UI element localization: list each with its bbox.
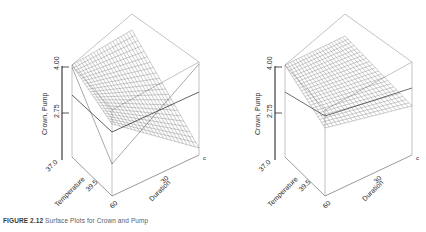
- figure-caption: FIGURE 2.12 Surface Plots for Crown and …: [3, 217, 148, 224]
- figure-caption-bar: FIGURE 2.12 Surface Plots for Crown and …: [0, 216, 426, 232]
- x-axis-title-left: Temperature: [53, 175, 87, 209]
- surface-mesh-right: [285, 36, 412, 128]
- z-tick-min-right: 2.75: [266, 104, 273, 118]
- surface-plot-left-svg: 4.00 2.75 Crown, Pump 37.0 39.5 Temperat…: [0, 0, 213, 212]
- corner-mark-right: c: [416, 155, 419, 161]
- surface-plot-panel-right: 4.00 2.75 Crown, Pump 37.0 39.5 Temperat…: [213, 0, 426, 212]
- plot-box-right: [285, 14, 412, 196]
- z-axis-left: [62, 66, 69, 160]
- surface-mesh-left: [72, 30, 199, 148]
- y-tick-front-left: 60: [108, 199, 119, 210]
- x-axis-title-right: Temperature: [266, 175, 300, 209]
- y-tick-front-right: 60: [321, 199, 332, 210]
- surface-plot-panel-left: 4.00 2.75 Crown, Pump 37.0 39.5 Temperat…: [0, 0, 213, 212]
- z-axis-right: [275, 66, 282, 160]
- figure-root: 4.00 2.75 Crown, Pump 37.0 39.5 Temperat…: [0, 0, 426, 232]
- z-axis-title-right: Crown, Pump: [254, 92, 262, 135]
- x-tick-mid-left: 39.5: [84, 178, 99, 193]
- z-axis-title-left: Crown, Pump: [41, 92, 49, 135]
- z-tick-min-left: 2.75: [53, 104, 60, 118]
- surface-plot-right-svg: 4.00 2.75 Crown, Pump 37.0 39.5 Temperat…: [213, 0, 426, 212]
- z-tick-max-right: 4.00: [266, 56, 273, 70]
- x-tick-min-left: 37.0: [44, 158, 59, 173]
- y-axis-title-left: Duration: [148, 179, 172, 203]
- plot-box-left: [72, 14, 199, 196]
- x-tick-mid-right: 39.5: [297, 178, 312, 193]
- figure-caption-text: Surface Plots for Crown and Pump: [43, 217, 148, 224]
- figure-caption-label: FIGURE 2.12: [3, 217, 43, 224]
- corner-mark-left: c: [203, 155, 206, 161]
- z-tick-max-left: 4.00: [53, 56, 60, 70]
- x-tick-min-right: 37.0: [257, 158, 272, 173]
- y-axis-title-right: Duration: [361, 179, 385, 203]
